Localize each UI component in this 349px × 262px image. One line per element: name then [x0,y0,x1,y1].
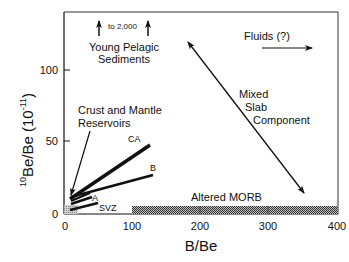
a-label: A [92,193,98,203]
y-label-exp: -11 [18,98,28,110]
chart-canvas: 100 50 0 0 100 200 300 400 B/Be 10Be/Be … [0,0,349,262]
series-ca [70,145,150,199]
altered-morb-region [132,206,338,214]
x-tick-0: 0 [62,220,68,232]
b-label: B [150,163,156,173]
ca-label: CA [128,134,141,144]
young-pelagic-label-1: Young Pelagic [89,41,159,53]
y-tick-50: 50 [46,135,58,147]
x-tick-100: 100 [123,220,141,232]
fluids-label: Fluids (?) [244,30,290,42]
y-tick-0: 0 [52,208,58,220]
mixed-label: Mixed [239,88,268,100]
svz-label: SVZ [99,203,117,213]
altered-morb-label: Altered MORB [191,191,262,203]
y-tick-100: 100 [40,64,58,76]
component-label: Component [253,114,310,126]
svg-text:10Be/Be (10-11): 10Be/Be (10-11) [18,93,36,187]
x-tick-200: 200 [191,220,209,232]
young-pelagic-label-2: Sediments [98,53,150,65]
y-axis-label: 10Be/Be (10-11) [18,93,36,187]
series-b [71,175,153,197]
x-tick-300: 300 [259,220,277,232]
x-axis-label: B/Be [185,237,218,254]
x-tick-400: 400 [328,220,346,232]
y-label-sup: 10 [18,177,28,187]
slab-label: Slab [245,101,267,113]
y-label-main: Be/Be (10 [19,110,36,177]
crust-label-1: Crust and Mantle [78,104,162,116]
y-label-close: ) [19,93,36,98]
crust-label-2: Reservoirs [78,117,131,129]
to-2000-label: to 2,000 [108,22,137,31]
